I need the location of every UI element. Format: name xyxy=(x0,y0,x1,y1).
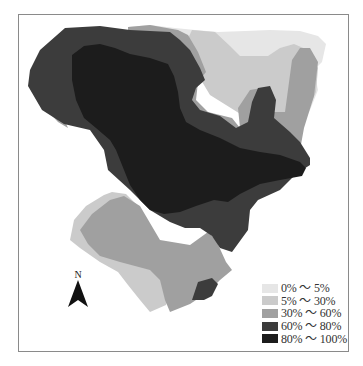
legend-swatch xyxy=(262,309,278,318)
legend-swatch xyxy=(262,296,278,305)
legend-swatch xyxy=(262,334,278,343)
legend-item: 5% ～ 30% xyxy=(262,295,347,308)
north-label: N xyxy=(66,270,90,280)
legend-item: 30% ～ 60% xyxy=(262,307,347,320)
legend-item: 60% ～ 80% xyxy=(262,320,347,333)
legend-item: 0% ～ 5% xyxy=(262,282,347,295)
north-arrow: N xyxy=(66,270,90,312)
legend-label: 5% ～ 30% xyxy=(281,295,335,307)
legend-label: 0% ～ 5% xyxy=(281,282,330,294)
legend-label: 30% ～ 60% xyxy=(281,307,341,319)
legend-swatch xyxy=(262,284,278,293)
legend-label: 60% ～ 80% xyxy=(281,320,341,332)
legend-label: 80% ～ 100% xyxy=(281,333,347,345)
legend-item: 80% ～ 100% xyxy=(262,332,347,345)
north-arrow-icon xyxy=(67,280,89,308)
legend-swatch xyxy=(262,322,278,331)
legend: 0% ～ 5% 5% ～ 30% 30% ～ 60% 60% ～ 80% 80%… xyxy=(262,282,347,345)
